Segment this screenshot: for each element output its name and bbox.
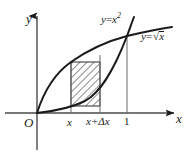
curve-label-parabola: y=x2 xyxy=(101,12,121,25)
curve-label-parabola-exponent: 2 xyxy=(117,11,121,20)
x-tick-label-one: 1 xyxy=(124,116,130,127)
radical-icon: √x xyxy=(152,31,164,42)
x-tick-label-x-plus-delta-x: x+Δx xyxy=(86,116,110,127)
curve-label-square-root: y=√x xyxy=(141,31,164,42)
x-axis-label: x xyxy=(176,112,182,125)
math-figure: y x O x x+Δx 1 y=x2 y=√x xyxy=(0,0,191,158)
y-axis-label: y xyxy=(26,12,32,25)
origin-label: O xyxy=(24,116,33,129)
hatched-strip xyxy=(71,62,100,106)
x-tick-label-x: x xyxy=(67,117,72,128)
